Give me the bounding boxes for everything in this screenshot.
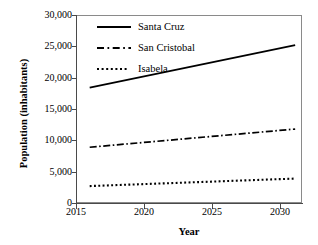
series-line-san-cristobal [90, 129, 295, 147]
legend-label-san-cristobal: San Cristobal [138, 42, 195, 53]
legend-swatch-dash-dot-icon [97, 42, 131, 54]
line-chart-figure: 30,000 25,000 20,000 15,000 10,000 5,000… [0, 0, 318, 245]
legend: Santa Cruz San Cristobal Isabela [97, 16, 247, 79]
legend-swatch-solid-icon [97, 21, 131, 33]
legend-item-san-cristobal: San Cristobal [97, 37, 247, 58]
legend-item-santa-cruz: Santa Cruz [97, 16, 247, 37]
series-line-isabela [90, 179, 295, 187]
legend-label-isabela: Isabela [138, 63, 168, 74]
legend-swatch-dotted-icon [97, 63, 131, 75]
legend-label-santa-cruz: Santa Cruz [138, 21, 184, 32]
legend-item-isabela: Isabela [97, 58, 247, 79]
